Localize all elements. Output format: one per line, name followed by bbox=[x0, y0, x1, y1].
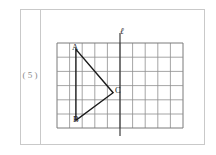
figure-area: A B C ℓ bbox=[41, 10, 204, 144]
mirror-line-label: ℓ bbox=[120, 27, 124, 36]
vertex-label-a: A bbox=[72, 43, 78, 52]
page-canvas: ( 5 ) bbox=[0, 0, 216, 155]
vertex-label-c: C bbox=[115, 86, 121, 95]
problem-number: ( 5 ) bbox=[20, 70, 40, 81]
vertex-label-b: B bbox=[73, 115, 79, 124]
